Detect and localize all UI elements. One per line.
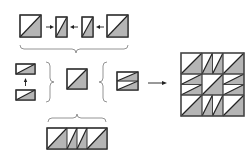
arrow-up-icon xyxy=(24,78,27,86)
brace-right-group xyxy=(99,62,107,102)
narrow-triangle-unit xyxy=(56,17,67,37)
brace-top xyxy=(20,45,128,53)
half-square-triangle-unit xyxy=(107,15,128,37)
right-stack-units xyxy=(117,72,138,90)
half-square-triangle-unit xyxy=(20,15,41,37)
arrow-left-icon xyxy=(70,25,78,29)
top-row-units xyxy=(20,15,128,37)
bottom-strip-units xyxy=(47,128,107,149)
arrow-right-icon xyxy=(148,81,167,85)
arrow-right-icon xyxy=(46,25,54,29)
quilt-construction-diagram xyxy=(0,0,252,161)
flat-triangle-unit xyxy=(16,90,35,100)
final-quilt-block xyxy=(181,53,244,116)
left-stack-units xyxy=(16,64,35,100)
flat-triangle-unit xyxy=(16,64,35,74)
narrow-triangle-unit xyxy=(82,17,93,37)
arrow-left-icon xyxy=(96,25,104,29)
brace-left-group xyxy=(46,62,54,102)
center-half-square-triangle-unit xyxy=(67,69,87,89)
brace-bottom xyxy=(48,114,106,122)
